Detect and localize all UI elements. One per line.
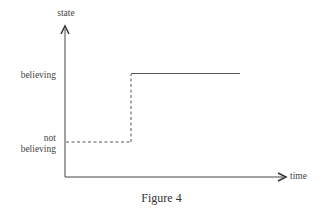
not-believing-level-label-line2: believing bbox=[0, 144, 56, 155]
y-axis-label: state bbox=[53, 8, 79, 19]
figure-caption: Figure 4 bbox=[0, 191, 323, 206]
x-axis-label: time bbox=[290, 171, 307, 182]
step-diagram bbox=[0, 0, 323, 213]
believing-level-label: believing bbox=[0, 70, 56, 81]
not-believing-level-label-line1: not bbox=[0, 133, 56, 144]
figure-4: state believing not believing time Figur… bbox=[0, 0, 323, 213]
